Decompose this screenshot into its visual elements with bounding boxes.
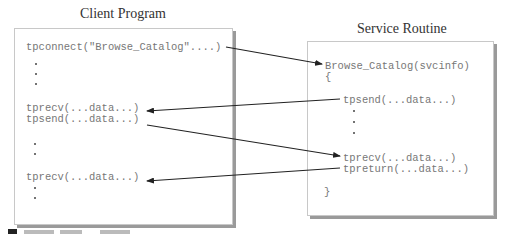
message-arrows <box>0 0 505 234</box>
arrow-connect-to-service <box>226 47 322 64</box>
arrow-service-return-to-client-recv <box>147 168 340 181</box>
arrow-client-send-to-service-recv <box>147 125 340 156</box>
caption-text-fragment <box>60 230 82 234</box>
arrow-service-send-to-client-recv <box>147 99 340 111</box>
caption-marker-icon <box>8 229 17 234</box>
figure-caption-fragment <box>0 228 505 234</box>
caption-text-fragment <box>24 230 54 234</box>
caption-text-fragment <box>100 230 130 234</box>
